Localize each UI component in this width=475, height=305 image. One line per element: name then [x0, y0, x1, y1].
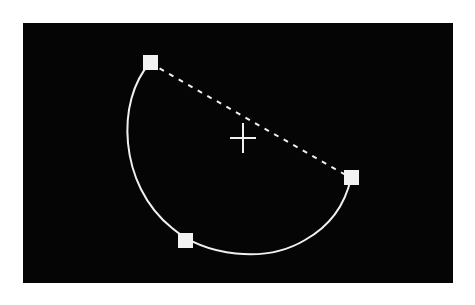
arc-editor-overlay: [0, 0, 475, 305]
end-handle[interactable]: [344, 170, 359, 185]
arc-curve[interactable]: [127, 63, 351, 254]
start-handle[interactable]: [143, 55, 158, 70]
crosshair-icon: [230, 123, 256, 153]
arc-chord-dashed: [150, 63, 351, 178]
mid-handle[interactable]: [178, 233, 193, 248]
